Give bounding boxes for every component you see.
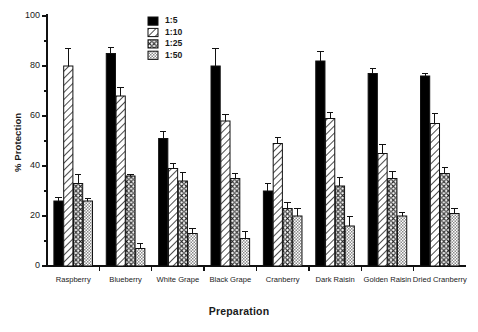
bar [398,216,407,266]
y-tick-label: 20 [6,210,40,220]
bar [430,124,439,267]
y-axis-title: % Protection [12,113,23,172]
bar [345,226,354,266]
bar-group [263,137,302,266]
bar [335,186,344,266]
bar-group [211,49,250,267]
bar [231,179,240,267]
bar [64,66,73,266]
bar-group [54,49,93,267]
bar [316,61,325,266]
legend-label: 1:10 [165,27,182,37]
legend-label: 1:5 [165,15,177,25]
legend-label: 1:25 [165,38,182,48]
x-axis-title: Preparation [0,305,478,317]
bar-group [159,131,198,266]
bar [240,239,249,267]
bar [293,216,302,266]
bar [73,184,82,267]
bar [326,119,335,267]
bar [136,249,145,267]
bar [83,201,92,266]
bar [450,214,459,267]
bar [273,144,282,267]
bar [106,54,115,267]
y-tick-label: 100 [6,10,40,20]
bar-group [421,74,460,267]
bar [211,66,220,266]
bar [54,201,63,266]
bar [221,121,230,266]
bar [263,191,272,266]
bar [168,169,177,267]
bar [126,176,135,266]
y-tick-label: 80 [6,60,40,70]
legend-label: 1:50 [165,50,182,60]
bar [421,76,430,266]
bar [188,234,197,267]
bar [368,74,377,267]
bar [283,209,292,267]
x-category-label: Dried Cranberry [395,275,478,284]
bar-group [368,69,407,267]
bar [378,154,387,267]
bar [159,139,168,267]
chart-figure: 020406080100% ProtectionRaspberryBlueber… [0,0,478,332]
bar-group [316,51,355,266]
bar [388,179,397,267]
bar [440,174,449,267]
y-tick-label: 0 [6,260,40,270]
bar [116,96,125,266]
bar [178,181,187,266]
bar-group [106,47,145,266]
